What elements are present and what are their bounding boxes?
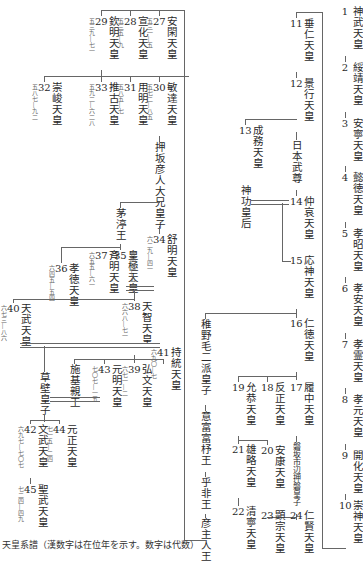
connector bbox=[345, 112, 346, 118]
figure-caption: 天皇系譜（漢数字は在位年を示す。数字は代数） bbox=[2, 538, 199, 551]
prince-yamato-takeru: 日本武尊 bbox=[290, 140, 302, 184]
prince-oshisaka-hikohito: 押坂彦人大兄皇子 bbox=[153, 142, 165, 230]
marriage-line bbox=[251, 200, 289, 205]
emperor-41: 持統天皇41 bbox=[157, 347, 181, 391]
emperor-12: 景行天皇12 bbox=[290, 78, 314, 122]
marriage-line bbox=[126, 286, 154, 291]
emperor-27: 安閑天皇27 bbox=[153, 16, 177, 60]
prince-ohohodo: 意富富杼王 bbox=[199, 411, 211, 466]
prince-kusakabe: 草壁皇子 bbox=[38, 372, 50, 416]
reign-years: 五八七―九二 bbox=[31, 84, 38, 120]
marriage-line bbox=[50, 397, 100, 402]
emperor-36: 孝徳天皇36 bbox=[55, 263, 79, 307]
emperor-19: 允恭天皇19 bbox=[232, 382, 256, 426]
prince-wakanuke-futamata: 稚野毛二派皇子 bbox=[199, 319, 211, 396]
connector bbox=[345, 166, 346, 172]
connector bbox=[345, 277, 346, 283]
reign-years: 六四二―五 bbox=[129, 252, 136, 282]
emperor-9: 開化天皇9 bbox=[339, 450, 363, 494]
emperor-37: 斉明天皇37 bbox=[95, 250, 119, 294]
prince-ohi: 乎非王 bbox=[199, 477, 211, 510]
emperor-1: 神武天皇1 bbox=[339, 6, 363, 50]
connector bbox=[345, 494, 346, 500]
reign-years: 五九二―六二八 bbox=[88, 84, 95, 126]
emperor-38: 天智天皇38 bbox=[128, 301, 152, 345]
emperor-32: 崇峻天皇32 bbox=[38, 82, 62, 126]
connector bbox=[245, 119, 297, 120]
emperor-31: 用明天皇31 bbox=[124, 82, 148, 126]
reign-years: 六七一―二 bbox=[121, 366, 128, 396]
emperor-20: 安康天皇20 bbox=[261, 445, 285, 489]
emperor-29: 欽明天皇29 bbox=[95, 16, 119, 60]
emperor-39: 弘文天皇39 bbox=[128, 364, 152, 408]
emperor-16: 仁徳天皇16 bbox=[290, 318, 314, 362]
connector bbox=[44, 76, 189, 77]
emperor-10: 崇神天皇10 bbox=[339, 500, 363, 544]
connector bbox=[205, 313, 297, 314]
emperor-6: 孝安天皇6 bbox=[339, 283, 363, 327]
emperor-23: 顕宗天皇23 bbox=[261, 510, 285, 554]
emperor-40: 天武天皇40 bbox=[7, 303, 31, 347]
connector bbox=[101, 10, 185, 11]
prince-chinu: 茅渟王 bbox=[114, 208, 126, 241]
connector bbox=[184, 10, 185, 540]
connector bbox=[13, 299, 135, 300]
connector bbox=[159, 226, 160, 234]
emperor-13: 成務天皇13 bbox=[239, 125, 263, 169]
emperor-24: 仁賢天皇24 bbox=[290, 510, 314, 554]
emperor-14: 仲哀天皇14 bbox=[290, 196, 314, 240]
connector bbox=[238, 440, 268, 441]
reign-years: 六九七―七〇七 bbox=[17, 426, 24, 468]
reign-years: 六七三―八六 bbox=[0, 305, 7, 341]
emperor-3: 安寧天皇3 bbox=[339, 118, 363, 162]
connector bbox=[61, 247, 62, 263]
emperor-33: 推古天皇33 bbox=[95, 82, 119, 126]
connector bbox=[345, 56, 346, 62]
connector bbox=[61, 247, 121, 248]
emperor-21: 雄略天皇21 bbox=[232, 444, 256, 488]
reign-years: 七二四―四九 bbox=[17, 486, 24, 522]
emperor-44: 元正天皇44 bbox=[53, 424, 77, 468]
emperor-22: 清寧天皇22 bbox=[232, 506, 256, 550]
emperor-5: 孝昭天皇5 bbox=[339, 228, 363, 272]
connector bbox=[345, 333, 346, 339]
emperor-43: 元明天皇43 bbox=[98, 364, 122, 408]
emperor-7: 孝霊天皇7 bbox=[339, 339, 363, 383]
connector bbox=[296, 12, 323, 13]
emperor-30: 敏達天皇30 bbox=[153, 82, 177, 126]
reign-years: 六四五―五四 bbox=[48, 265, 55, 301]
connector bbox=[345, 222, 346, 228]
connector bbox=[120, 202, 160, 203]
connector bbox=[44, 346, 45, 372]
emperor-28: 宣化天皇28 bbox=[124, 16, 148, 60]
connector bbox=[345, 444, 346, 450]
emperor-45: 聖武天皇45 bbox=[24, 484, 48, 528]
connector bbox=[322, 12, 323, 549]
connector bbox=[296, 132, 297, 140]
emperor-42: 文武天皇42 bbox=[24, 424, 48, 468]
marriage-line bbox=[20, 343, 160, 348]
reign-years: 六二九―四一 bbox=[146, 236, 153, 272]
emperor-15: 応神天皇15 bbox=[290, 255, 314, 299]
reign-years: 五三九―七一 bbox=[88, 18, 95, 54]
emperor-2: 綏靖天皇2 bbox=[339, 62, 363, 106]
connector bbox=[30, 420, 60, 421]
emperor-17: 履中天皇17 bbox=[290, 382, 314, 426]
reign-years: 七一五―二四 bbox=[46, 426, 53, 462]
emperor-34: 舒明天皇34 bbox=[153, 234, 177, 278]
connector bbox=[345, 388, 346, 394]
reign-years: 六五五―六一 bbox=[88, 252, 95, 288]
emperor-11: 垂仁天皇11 bbox=[290, 18, 314, 62]
empress-jingu: 神功皇后 bbox=[239, 185, 251, 229]
connector bbox=[238, 498, 239, 506]
connector bbox=[322, 548, 346, 549]
connector bbox=[282, 203, 283, 261]
emperor-8: 孝元天皇8 bbox=[339, 394, 363, 438]
emperor-18: 反正天皇18 bbox=[261, 382, 285, 426]
reign-years: 六六八―七一 bbox=[121, 303, 128, 339]
emperor-4: 懿徳天皇4 bbox=[339, 172, 363, 216]
prince-ichinobe-no-oshiwa: 磐坂市辺押磐皇子 bbox=[290, 442, 300, 506]
